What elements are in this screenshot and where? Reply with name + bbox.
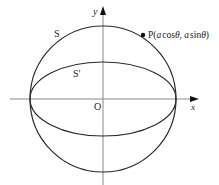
- y-fn: sin: [190, 30, 201, 40]
- origin-label: O: [94, 101, 101, 112]
- circle-label-s: S: [54, 28, 60, 39]
- x-fn: cos: [162, 30, 175, 40]
- y-coef: a: [184, 30, 189, 40]
- y-axis-label: y: [92, 6, 98, 17]
- y-axis-arrow-icon: [100, 6, 106, 15]
- ellipse-label-s-prime: S': [73, 68, 81, 79]
- ellipse-circle-diagram: y x O S S' P(acosθ, asinθ): [0, 0, 219, 185]
- x-axis-label: x: [190, 102, 195, 112]
- point-p-label: P(acosθ, asinθ): [148, 30, 209, 41]
- paren-close: ): [206, 30, 209, 41]
- point-p-marker: [141, 33, 145, 37]
- x-coef: a: [156, 30, 161, 40]
